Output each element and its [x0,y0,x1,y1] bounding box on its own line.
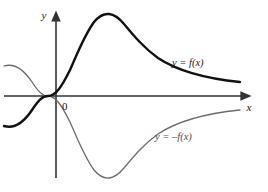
curve-label-f: y = f(x) [171,57,204,69]
x-axis-label: x [246,101,252,113]
origin-label: 0 [62,100,68,112]
curve-f [4,14,240,127]
y-axis-label: y [41,9,47,21]
graph-canvas: y x 0 y = f(x) y = –f(x) [0,0,268,192]
function-reflection-figure: y x 0 y = f(x) y = –f(x) [0,0,268,192]
curve-label-negative-f: y = –f(x) [154,131,192,143]
curve-negative-f [4,65,240,178]
